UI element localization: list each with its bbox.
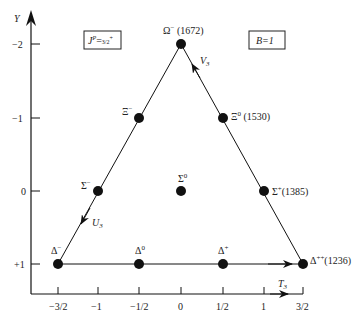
particle-delta-minus: Δ−	[51, 244, 63, 269]
u3-label: U3	[92, 217, 103, 230]
svg-text:Δ++(1236): Δ++(1236)	[310, 254, 351, 267]
x-tick-label: −1	[91, 301, 102, 312]
svg-text:Σ−: Σ−	[81, 179, 91, 191]
spin-parity-box: JP=3/2+	[84, 31, 121, 49]
svg-text:B=1: B=1	[256, 35, 274, 46]
particle-sigma-minus: Σ−	[81, 179, 103, 196]
particle-xi-zero: Ξ0 (1530)	[218, 110, 270, 123]
particle-delta-plus-plus: Δ++(1236)	[298, 254, 351, 269]
x-axis: T3 −3/2 −1 −1/2 0 1/2 1 3/2	[31, 278, 309, 312]
particle-delta-plus: Δ+	[218, 244, 228, 269]
u3-arrow-icon	[81, 208, 90, 224]
decuplet-triangle	[58, 44, 303, 264]
svg-text:Ω− (1672): Ω− (1672)	[163, 24, 204, 37]
baryon-number-box: B=1	[249, 31, 285, 49]
svg-text:Ξ0 (1530): Ξ0 (1530)	[231, 110, 270, 123]
x-tick-label: 3/2	[296, 301, 309, 312]
particle-omega-minus: Ω− (1672)	[163, 24, 204, 49]
x-tick-label: 1	[261, 301, 266, 312]
svg-text:Δ+: Δ+	[218, 244, 228, 256]
particle-sigma-zero: Σ0	[176, 172, 188, 196]
svg-text:Δ−: Δ−	[51, 244, 61, 256]
y-axis: Y −2 −1 0 +1	[12, 10, 40, 294]
svg-text:Ξ−: Ξ−	[122, 105, 132, 117]
x-tick-label: −3/2	[49, 301, 67, 312]
particle-xi-minus: Ξ−	[122, 105, 144, 123]
decuplet-diagram: Y −2 −1 0 +1 T3 −3/2 −1 −1/2 0 1/2 1 3/2	[0, 0, 363, 322]
particle-sigma-plus: Σ+(1385)	[259, 185, 308, 198]
y-tick-label: −1	[12, 113, 23, 124]
x-tick-label: −1/2	[130, 301, 148, 312]
v3-label: V3	[200, 55, 210, 68]
x-tick-label: 1/2	[216, 301, 229, 312]
particle-delta-zero: Δ0	[134, 244, 145, 269]
y-tick-label: +1	[14, 259, 25, 270]
svg-text:Σ+(1385): Σ+(1385)	[272, 185, 308, 198]
y-tick-label: −2	[12, 39, 23, 50]
v3-arrow-icon	[192, 64, 200, 78]
svg-text:Σ0: Σ0	[178, 172, 188, 184]
svg-text:Δ0: Δ0	[135, 244, 145, 256]
y-axis-label: Y	[14, 13, 21, 24]
x-tick-label: 0	[178, 301, 183, 312]
t3-label: T3	[278, 278, 288, 291]
y-tick-label: 0	[21, 186, 26, 197]
